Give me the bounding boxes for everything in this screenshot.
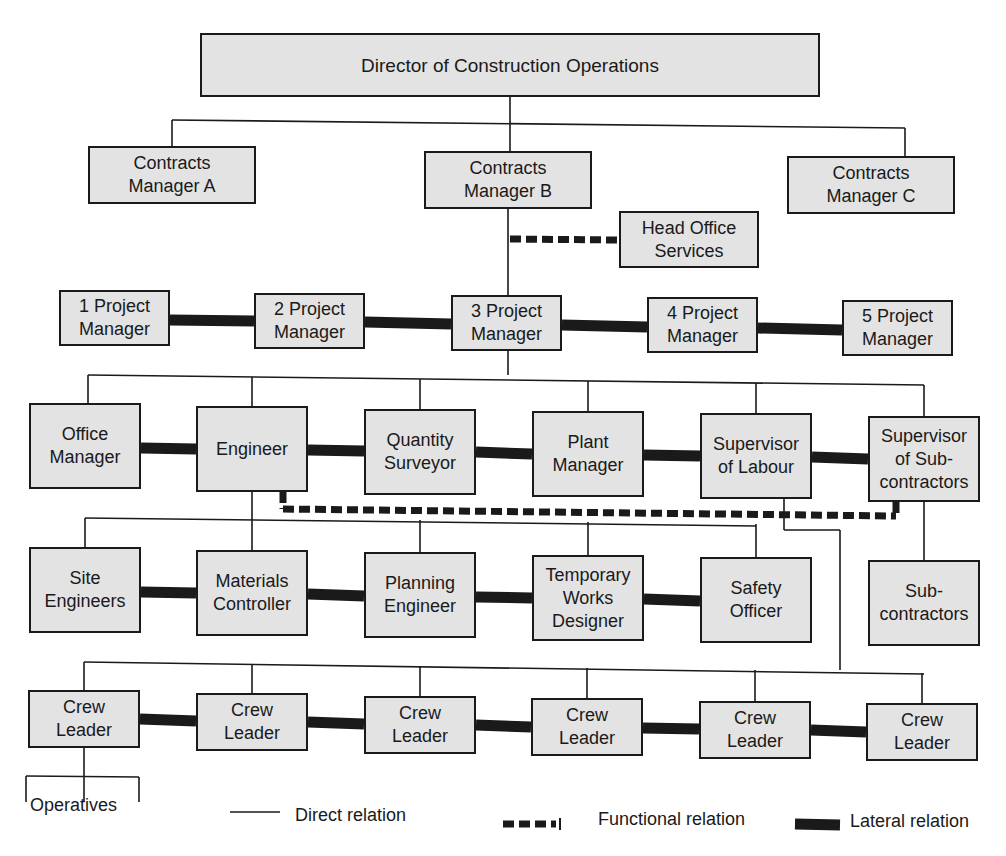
node-engineer[interactable]: Engineer	[196, 406, 308, 492]
node-contracts-manager-b[interactable]: Contracts Manager B	[424, 151, 592, 209]
lateral-relation-line	[141, 448, 196, 449]
lateral-relation-line	[476, 597, 532, 598]
legend-functional-label: Functional relation	[598, 809, 745, 830]
node-crew-leader-3[interactable]: Crew Leader	[364, 696, 476, 754]
node-planning-engineer[interactable]: Planning Engineer	[364, 552, 476, 638]
node-supervisor-of-subcontractors[interactable]: Supervisor of Sub- contractors	[868, 416, 980, 502]
relation-lines	[0, 0, 1006, 856]
lateral-relation-line	[308, 594, 364, 596]
lateral-relation-line	[644, 599, 700, 601]
lateral-relation-line	[562, 325, 647, 327]
node-project-manager-4[interactable]: 4 Project Manager	[647, 297, 758, 353]
functional-relation-line	[510, 239, 619, 240]
node-crew-leader-6[interactable]: Crew Leader	[866, 703, 978, 761]
node-temporary-works-designer[interactable]: Temporary Works Designer	[532, 555, 644, 641]
node-head-office-services[interactable]: Head Office Services	[619, 211, 759, 268]
lateral-relation-line	[476, 725, 531, 727]
node-plant-manager[interactable]: Plant Manager	[532, 411, 644, 497]
legend-lateral-label: Lateral relation	[850, 811, 969, 832]
lateral-relation-line	[758, 328, 842, 330]
node-project-manager-1[interactable]: 1 Project Manager	[59, 290, 170, 346]
direct-relation-line	[172, 120, 905, 128]
node-crew-leader-4[interactable]: Crew Leader	[531, 698, 643, 756]
lateral-relation-line	[170, 320, 254, 321]
node-director[interactable]: Director of Construction Operations	[200, 33, 820, 97]
node-project-manager-5[interactable]: 5 Project Manager	[842, 300, 953, 356]
node-crew-leader-5[interactable]: Crew Leader	[699, 701, 811, 759]
node-crew-leader-2[interactable]: Crew Leader	[196, 693, 308, 751]
lateral-relation-line	[308, 450, 364, 451]
node-crew-leader-1[interactable]: Crew Leader	[28, 690, 140, 748]
lateral-relation-line	[308, 722, 364, 724]
org-chart: Director of Construction Operations Cont…	[0, 0, 1006, 856]
direct-relation-line	[88, 375, 924, 385]
lateral-relation-line	[365, 322, 451, 324]
lateral-relation-line	[644, 455, 700, 456]
node-safety-officer[interactable]: Safety Officer	[700, 557, 812, 643]
node-subcontractors[interactable]: Sub- contractors	[868, 560, 980, 646]
functional-relation-line	[283, 509, 896, 516]
lateral-relation-line	[643, 728, 699, 729]
node-site-engineers[interactable]: Site Engineers	[29, 547, 141, 633]
lateral-relation-line	[476, 452, 532, 454]
direct-relation-line	[26, 776, 139, 777]
node-contracts-manager-a[interactable]: Contracts Manager A	[88, 146, 256, 204]
lateral-relation-line	[141, 592, 196, 593]
lateral-relation-line	[812, 457, 868, 459]
legend-direct-label: Direct relation	[295, 805, 406, 826]
node-quantity-surveyor[interactable]: Quantity Surveyor	[364, 409, 476, 495]
node-project-manager-3[interactable]: 3 Project Manager	[451, 295, 562, 351]
node-supervisor-of-labour[interactable]: Supervisor of Labour	[700, 413, 812, 499]
node-office-manager[interactable]: Office Manager	[29, 403, 141, 489]
lateral-relation-line	[811, 730, 866, 732]
node-project-manager-2[interactable]: 2 Project Manager	[254, 293, 365, 349]
direct-relation-line	[84, 662, 924, 674]
operatives-label: Operatives	[30, 795, 117, 816]
node-materials-controller[interactable]: Materials Controller	[196, 550, 308, 636]
lateral-relation-line	[795, 824, 840, 825]
lateral-relation-line	[140, 719, 196, 721]
node-contracts-manager-c[interactable]: Contracts Manager C	[787, 156, 955, 214]
